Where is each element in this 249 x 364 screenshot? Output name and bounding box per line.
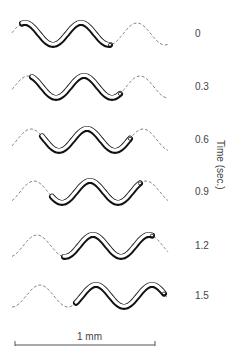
time-label: 0.3 — [195, 81, 209, 92]
worm-frame-1.5 — [12, 284, 168, 307]
time-axis-title: Time (sec.) — [215, 140, 226, 190]
path-track — [12, 181, 168, 203]
time-label: 0 — [195, 28, 201, 39]
time-label: 1.5 — [195, 290, 209, 301]
time-label: 0.6 — [195, 134, 209, 145]
scale-bar-label: 1 mm — [77, 331, 102, 342]
time-label: 1.2 — [195, 240, 209, 251]
worm-frame-0.6 — [12, 128, 168, 151]
worm-frame-0 — [12, 22, 168, 46]
time-label: 0.9 — [195, 186, 209, 197]
worm-frame-0.3 — [12, 75, 168, 98]
worm-frame-0.9 — [12, 180, 168, 203]
worm-frame-1.2 — [12, 234, 168, 257]
worm-diagram — [0, 0, 249, 364]
